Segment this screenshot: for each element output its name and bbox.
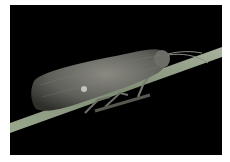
moth-illustration xyxy=(10,5,222,155)
moth-photo xyxy=(10,5,222,155)
